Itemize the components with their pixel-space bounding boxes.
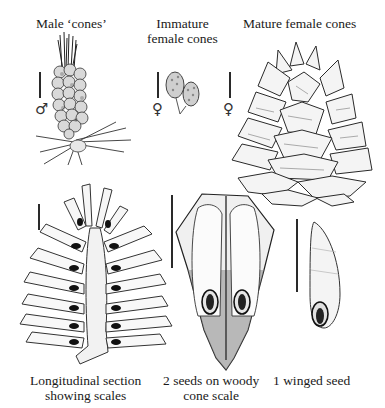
immature-female-cones-label: Immature female cones xyxy=(147,16,218,46)
immature-cones-scale-bar xyxy=(157,72,159,98)
seeds-on-scale-label: 2 seeds on woody cone scale xyxy=(163,373,259,403)
mature-female-cone-illustration xyxy=(228,36,378,206)
immature-female-cones-illustration xyxy=(164,68,204,120)
section-label-line1: Longitudinal section xyxy=(30,373,141,388)
seed-scale-scale-bar xyxy=(171,195,173,268)
mature-female-cones-label: Mature female cones xyxy=(243,16,356,31)
seeds-on-cone-scale-illustration xyxy=(176,190,276,370)
longitudinal-section-label: Longitudinal section showing scales xyxy=(30,373,141,403)
male-cones-label: Male ‘cones’ xyxy=(36,16,107,31)
winged-seed-scale-bar xyxy=(296,219,298,292)
male-cone-cluster-illustration xyxy=(36,30,136,165)
seeds-label-line2: cone scale xyxy=(163,388,259,403)
winged-seed-illustration xyxy=(306,218,346,336)
immature-label-line2: female cones xyxy=(147,31,218,46)
section-label-line2: showing scales xyxy=(30,388,141,403)
female-symbol-icon: ♀ xyxy=(152,102,163,117)
seeds-label-line1: 2 seeds on woody xyxy=(163,373,259,388)
immature-label-line1: Immature xyxy=(147,16,218,31)
winged-seed-label: 1 winged seed xyxy=(273,373,350,388)
longitudinal-section-illustration xyxy=(16,180,176,370)
